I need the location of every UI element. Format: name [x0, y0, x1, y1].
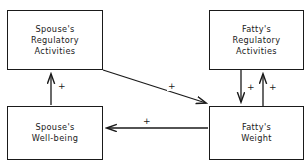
edge-sign-weight-to-wellbeing: + [142, 117, 152, 126]
node-label-line: Regulatory [233, 35, 281, 46]
node-spouse-well-being: Spouse's Well-being [7, 106, 103, 160]
node-label-line: Activities [35, 46, 76, 57]
node-label-line: Fatty's [242, 24, 271, 35]
edge-sign-spouse-reg-to-weight: + [167, 82, 177, 91]
edge-sign-wellbeing-to-regulatory: + [57, 82, 67, 91]
node-spouse-regulatory-activities: Spouse's Regulatory Activities [7, 10, 103, 70]
node-label-line: Regulatory [31, 35, 79, 46]
edge-sign-weight-to-fattyreg: + [268, 83, 278, 92]
node-label-line: Fatty's [242, 122, 271, 133]
edge-sign-fattyreg-to-weight: + [246, 83, 256, 92]
edge-spouse-reg-to-weight [103, 70, 206, 103]
node-label-line: Activities [236, 46, 277, 57]
node-fatty-regulatory-activities: Fatty's Regulatory Activities [209, 10, 304, 70]
node-label-line: Spouse's [35, 122, 74, 133]
node-label-line: Weight [241, 133, 272, 144]
node-label-line: Well-being [32, 133, 79, 144]
diagram-canvas: Spouse's Regulatory Activities Fatty's R… [0, 0, 308, 163]
node-label-line: Spouse's [35, 24, 74, 35]
node-fatty-weight: Fatty's Weight [209, 106, 304, 160]
